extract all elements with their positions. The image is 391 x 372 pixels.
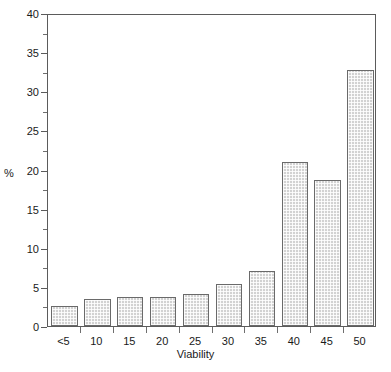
y-tick-major: [41, 210, 47, 211]
y-tick-minor: [43, 268, 47, 269]
y-tick-major: [41, 171, 47, 172]
x-tick-label: 45: [321, 336, 333, 347]
y-tick-label: 15: [27, 204, 39, 215]
x-tick: [179, 327, 180, 333]
x-tick: [277, 327, 278, 333]
x-tick: [113, 327, 114, 333]
y-tick-major: [41, 53, 47, 54]
bar: [51, 306, 77, 326]
y-tick-minor: [43, 151, 47, 152]
x-tick: [212, 327, 213, 333]
bar: [183, 294, 209, 326]
x-tick-label: 50: [353, 336, 365, 347]
y-tick-label: 30: [27, 87, 39, 98]
y-tick-minor: [43, 190, 47, 191]
y-tick-label: 0: [33, 322, 39, 333]
y-tick-label: 25: [27, 126, 39, 137]
x-tick-label: 35: [255, 336, 267, 347]
y-tick-label: 10: [27, 243, 39, 254]
x-tick: [146, 327, 147, 333]
x-axis-title: Viability: [0, 349, 391, 360]
bar: [84, 299, 110, 326]
bar: [216, 284, 242, 326]
y-tick-label: 35: [27, 48, 39, 59]
x-tick-label: <5: [57, 336, 70, 347]
bar: [314, 180, 340, 326]
bar: [249, 271, 275, 326]
x-tick: [310, 327, 311, 333]
bar: [117, 297, 143, 326]
x-tick: [343, 327, 344, 333]
y-tick-major: [41, 288, 47, 289]
y-tick-major: [41, 131, 47, 132]
x-tick-label: 15: [123, 336, 135, 347]
y-tick-major: [41, 92, 47, 93]
x-tick-label: 40: [288, 336, 300, 347]
plot-area: [48, 15, 375, 326]
y-tick-major: [41, 249, 47, 250]
bar: [347, 70, 373, 326]
y-tick-minor: [43, 34, 47, 35]
x-tick-label: 25: [189, 336, 201, 347]
y-tick-major: [41, 14, 47, 15]
x-tick: [244, 327, 245, 333]
y-tick-label: 20: [27, 165, 39, 176]
y-tick-label: 5: [33, 282, 39, 293]
x-axis: <5101520253035404550: [47, 327, 376, 367]
y-tick-minor: [43, 73, 47, 74]
x-tick: [80, 327, 81, 333]
bar-chart-figure: 0510152025303540 <5101520253035404550 % …: [0, 0, 391, 372]
x-tick-label: 30: [222, 336, 234, 347]
bar: [150, 297, 176, 326]
bar: [282, 162, 308, 326]
plot-frame: [47, 14, 376, 327]
x-tick-label: 10: [90, 336, 102, 347]
y-tick-minor: [43, 307, 47, 308]
y-tick-minor: [43, 229, 47, 230]
x-tick-label: 20: [156, 336, 168, 347]
y-tick-label: 40: [27, 9, 39, 20]
y-axis-title: %: [4, 168, 14, 179]
y-tick-minor: [43, 112, 47, 113]
